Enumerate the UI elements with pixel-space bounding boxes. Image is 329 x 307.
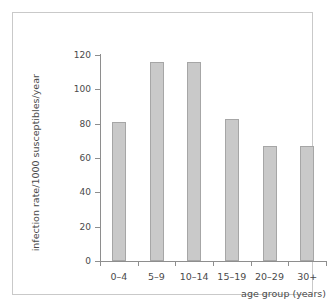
x-axis-title: age group (years) xyxy=(241,289,326,299)
x-tick-mark xyxy=(100,261,101,266)
y-axis-title: infection rate/1000 susceptibles/year xyxy=(31,74,41,251)
y-tick-label: 80 xyxy=(80,119,91,128)
x-tick-label: 10–14 xyxy=(180,272,209,282)
x-tick-label: 15–19 xyxy=(217,272,246,282)
y-tick-mark xyxy=(95,158,100,159)
y-tick-mark xyxy=(95,55,100,56)
bar-0-4 xyxy=(112,122,126,261)
y-tick-label: 120 xyxy=(74,51,91,60)
x-tick-label: 0–4 xyxy=(110,272,127,282)
bar-20-29 xyxy=(263,146,277,261)
figure-frame: 020406080100120 0–45–910–1415–1920–2930+… xyxy=(12,12,313,295)
x-tick-label: 20–29 xyxy=(255,272,284,282)
bar-15-19 xyxy=(225,119,239,261)
y-tick-mark xyxy=(95,124,100,125)
x-tick-mark xyxy=(288,261,289,266)
plot-area: 020406080100120 0–45–910–1415–1920–2930+ xyxy=(100,55,326,261)
y-tick-mark xyxy=(95,227,100,228)
x-tick-label: 30+ xyxy=(297,272,317,282)
bar-10-14 xyxy=(187,62,201,261)
y-tick-label: 0 xyxy=(85,257,91,266)
x-tick-mark xyxy=(213,261,214,266)
y-tick-label: 20 xyxy=(80,222,91,231)
bar-5-9 xyxy=(150,62,164,261)
x-tick-mark xyxy=(251,261,252,266)
y-tick-mark xyxy=(95,89,100,90)
x-tick-mark xyxy=(138,261,139,266)
x-tick-label: 5–9 xyxy=(148,272,165,282)
y-tick-label: 40 xyxy=(80,188,91,197)
x-tick-mark xyxy=(326,261,327,266)
bar-30- xyxy=(300,146,314,261)
x-tick-mark xyxy=(175,261,176,266)
chart-screenshot: 020406080100120 0–45–910–1415–1920–2930+… xyxy=(0,0,329,307)
y-tick-label: 60 xyxy=(80,154,91,163)
y-tick-label: 100 xyxy=(74,85,91,94)
y-tick-mark xyxy=(95,192,100,193)
